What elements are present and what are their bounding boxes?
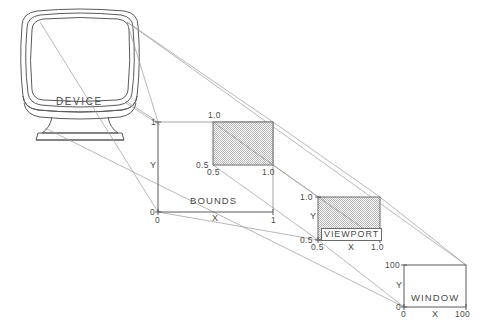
device-monitor	[21, 9, 140, 140]
window-box	[401, 265, 466, 310]
window-y-tick-top: 100	[385, 261, 400, 270]
viewport-y-axis-label: Y	[310, 212, 316, 221]
bounds-region-top-tick: 1.0	[208, 111, 221, 120]
viewport-label: VIEWPORT	[321, 228, 382, 241]
window-x-tick-left: 0	[401, 310, 406, 319]
device-label: DEVICE	[56, 97, 103, 107]
viewport-y-tick-top: 1.0	[300, 193, 313, 202]
window-x-tick-right: 100	[455, 310, 470, 319]
bounds-label: BOUNDS	[190, 196, 237, 206]
bounds-region-bottom-right-tick: 1.0	[262, 168, 275, 177]
window-x-axis-label: X	[432, 310, 438, 319]
window-y-axis-label: Y	[396, 281, 402, 290]
viewport-x-axis-label: X	[348, 243, 354, 252]
diagram-canvas: DEVICE BOUNDS Y X 0 1 0 1 1.0 0.5 0.5 1.…	[0, 0, 480, 328]
viewport-x-tick-left: 0.5	[311, 243, 324, 252]
bounds-y-tick-1: 1	[151, 118, 156, 127]
bounds-x-tick-0: 0	[155, 216, 160, 225]
bounds-region-bottom-left-tick: 0.5	[207, 168, 220, 177]
window-label: WINDOW	[411, 293, 459, 303]
bounds-shaded-region	[213, 122, 273, 165]
bounds-y-axis-label: Y	[150, 161, 156, 170]
bounds-x-tick-1: 1	[271, 216, 276, 225]
viewport-x-tick-right: 1.0	[371, 243, 384, 252]
bounds-x-axis-label: X	[212, 214, 218, 223]
diagram-vector-layer	[0, 0, 480, 328]
